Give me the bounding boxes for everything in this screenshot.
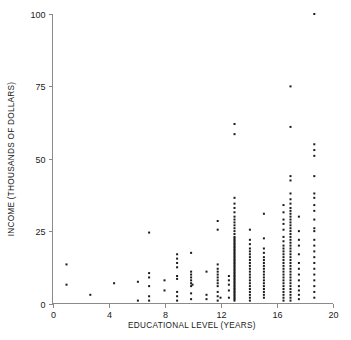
data-point xyxy=(263,248,265,250)
data-point xyxy=(263,252,265,254)
data-point xyxy=(290,300,292,302)
scatter-plot-figure: 0255075100 048121620 EDUCATIONAL LEVEL (… xyxy=(0,0,351,340)
data-point xyxy=(313,13,315,15)
data-point xyxy=(290,294,292,296)
plot-svg: 0255075100 048121620 EDUCATIONAL LEVEL (… xyxy=(0,0,351,340)
x-tick-label: 20 xyxy=(328,310,338,320)
data-point xyxy=(164,289,166,291)
data-point xyxy=(298,289,300,291)
data-point xyxy=(263,282,265,284)
data-point xyxy=(190,276,192,278)
data-point xyxy=(176,275,178,277)
y-tick-label: 100 xyxy=(30,10,45,20)
data-point xyxy=(290,175,292,177)
data-point xyxy=(234,203,236,205)
data-point xyxy=(298,285,300,287)
x-tick-label: 8 xyxy=(163,310,168,320)
data-point xyxy=(249,271,251,273)
data-point xyxy=(290,230,292,232)
x-axis-title: EDUCATIONAL LEVEL (YEARS) xyxy=(128,321,256,330)
data-point xyxy=(290,126,292,128)
data-point xyxy=(298,230,300,232)
y-tick-label: 50 xyxy=(35,155,45,165)
data-point xyxy=(290,265,292,267)
data-point xyxy=(283,268,285,270)
data-point xyxy=(190,271,192,273)
data-point xyxy=(290,268,292,270)
data-point xyxy=(283,285,285,287)
data-point xyxy=(283,211,285,213)
data-point xyxy=(290,253,292,255)
data-point xyxy=(290,245,292,247)
data-point xyxy=(290,248,292,250)
y-axis-ticks: 0255075100 xyxy=(30,10,52,310)
data-point xyxy=(290,297,292,299)
data-point xyxy=(249,282,251,284)
data-point xyxy=(176,300,178,302)
data-point xyxy=(249,274,251,276)
data-point xyxy=(313,268,315,270)
data-point xyxy=(263,294,265,296)
x-axis-ticks: 048121620 xyxy=(51,304,339,320)
data-point xyxy=(290,276,292,278)
data-point xyxy=(298,262,300,264)
data-point xyxy=(283,274,285,276)
data-point xyxy=(249,243,251,245)
data-point xyxy=(290,250,292,252)
data-point xyxy=(290,227,292,229)
data-point xyxy=(137,300,139,302)
data-point xyxy=(234,123,236,125)
data-point xyxy=(89,294,91,296)
data-point xyxy=(283,297,285,299)
data-point xyxy=(290,210,292,212)
data-point xyxy=(249,253,251,255)
data-point xyxy=(228,297,230,299)
data-point xyxy=(290,259,292,261)
data-point xyxy=(249,229,251,231)
y-tick-label: 75 xyxy=(35,82,45,92)
data-point xyxy=(313,155,315,157)
data-point xyxy=(249,262,251,264)
data-point xyxy=(263,262,265,264)
data-point xyxy=(228,275,230,277)
data-point xyxy=(263,271,265,273)
data-point xyxy=(217,282,219,284)
data-point xyxy=(263,288,265,290)
x-tick-label: 12 xyxy=(216,310,226,320)
data-point xyxy=(283,288,285,290)
data-point xyxy=(263,285,265,287)
data-point xyxy=(283,219,285,221)
data-point xyxy=(190,279,192,281)
data-point xyxy=(217,285,219,287)
data-point xyxy=(234,133,236,135)
y-tick-label: 25 xyxy=(35,227,45,237)
data-point xyxy=(263,259,265,261)
data-point xyxy=(190,292,192,294)
data-point xyxy=(298,268,300,270)
data-point xyxy=(217,291,219,293)
data-point xyxy=(249,248,251,250)
data-point xyxy=(263,297,265,299)
data-point xyxy=(283,253,285,255)
data-point xyxy=(217,300,219,302)
data-point xyxy=(283,294,285,296)
data-point xyxy=(176,295,178,297)
data-point xyxy=(249,259,251,261)
data-point xyxy=(283,250,285,252)
data-point xyxy=(263,279,265,281)
data-point xyxy=(66,263,68,265)
data-point xyxy=(290,236,292,238)
data-point xyxy=(217,263,219,265)
data-point xyxy=(217,276,219,278)
data-point xyxy=(290,271,292,273)
data-point xyxy=(290,285,292,287)
data-point xyxy=(298,274,300,276)
data-point xyxy=(263,268,265,270)
data-point xyxy=(249,294,251,296)
data-point xyxy=(206,271,208,273)
data-point xyxy=(298,253,300,255)
data-point xyxy=(290,242,292,244)
data-point xyxy=(249,239,251,241)
data-point xyxy=(206,294,208,296)
data-point xyxy=(176,258,178,260)
